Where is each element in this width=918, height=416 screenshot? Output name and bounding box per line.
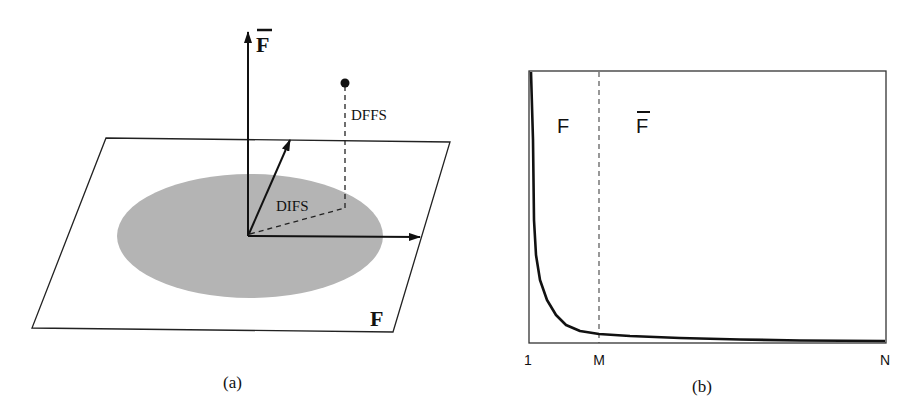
- horizontal-axis-arrow: [248, 236, 420, 237]
- x-tick-1: 1: [524, 352, 532, 368]
- x-tick-m: M: [593, 352, 605, 368]
- panel-a: F DFFS DIFS F (a): [32, 30, 450, 392]
- plot-frame: [529, 71, 886, 343]
- axis-label-fbar: F: [256, 32, 269, 57]
- x-tick-n: N: [880, 352, 890, 368]
- figure-canvas: F DFFS DIFS F (a) F F 1 M N (b): [0, 0, 918, 416]
- difs-label: DIFS: [276, 198, 309, 214]
- data-point: [341, 79, 350, 88]
- plane-label-f: F: [370, 306, 383, 331]
- region-label-fbar: F: [636, 115, 648, 137]
- panel-b: F F 1 M N (b): [524, 71, 890, 396]
- region-label-f: F: [557, 115, 569, 137]
- caption-b: (b): [692, 377, 712, 396]
- caption-a: (a): [223, 373, 242, 392]
- eigenvalue-curve: [531, 72, 885, 341]
- dffs-label: DFFS: [351, 107, 387, 123]
